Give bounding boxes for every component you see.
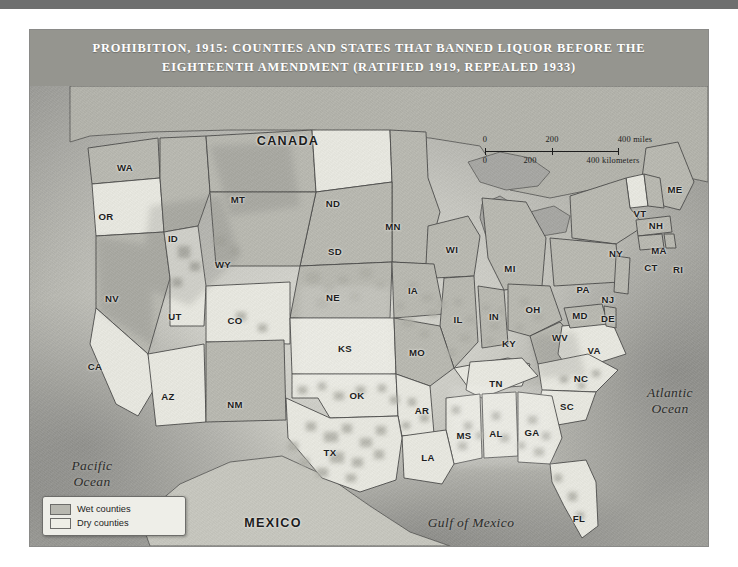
map-canvas[interactable]: 0 200 400 miles 0 200 400 kilometers Wet… [30,86,708,546]
page-top-strip [0,0,738,9]
legend-item-dry[interactable]: Dry counties [50,516,178,530]
legend-swatch-wet-icon [50,504,71,515]
scale-mi-tick-200: 200 [545,135,558,144]
legend-swatch-dry-icon [50,518,71,529]
map-title-band: PROHIBITION, 1915: COUNTIES AND STATES T… [30,30,708,86]
scale-km-tick-400: 400 kilometers [587,156,640,165]
scale-mi-tick-0: 0 [483,135,487,144]
scale-bar: 0 200 400 miles 0 200 400 kilometers [485,135,645,168]
legend-item-wet[interactable]: Wet counties [50,502,178,516]
map-figure: PROHIBITION, 1915: COUNTIES AND STATES T… [30,30,708,546]
scale-bar-axis [485,148,645,155]
map-title: PROHIBITION, 1915: COUNTIES AND STATES T… [30,39,708,77]
map-legend: Wet counties Dry counties [42,496,186,536]
legend-label-wet: Wet counties [77,504,131,514]
scale-km-tick-200: 200 [523,156,536,165]
scale-km-ticks: 0 200 400 kilometers [485,156,645,168]
scale-km-tick-0: 0 [483,156,487,165]
scale-miles-ticks: 0 200 400 miles [485,135,645,147]
legend-label-dry: Dry counties [77,518,129,528]
scale-mi-tick-400: 400 miles [618,135,653,144]
